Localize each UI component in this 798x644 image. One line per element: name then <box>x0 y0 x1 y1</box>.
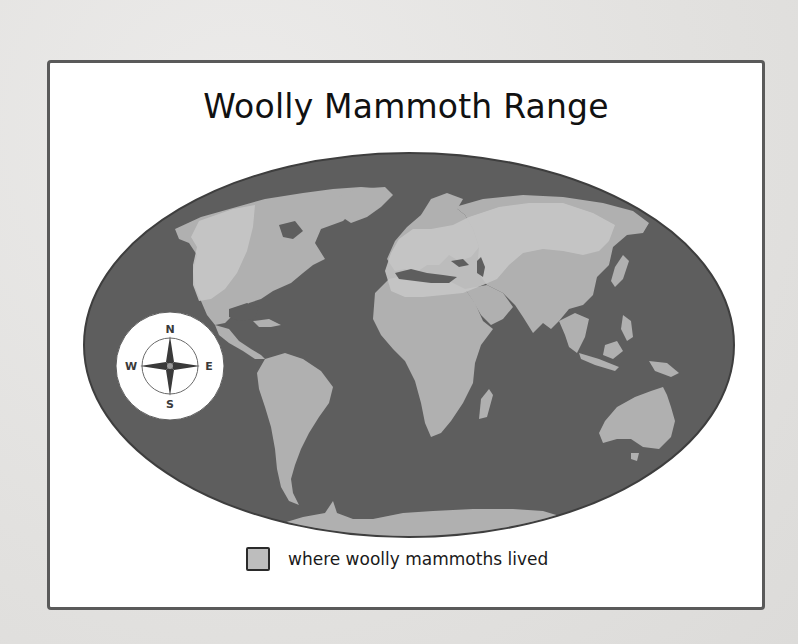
compass-north-label: N <box>165 323 174 336</box>
world-map: N S W E <box>50 63 762 607</box>
compass-east-label: E <box>205 360 213 373</box>
legend-swatch <box>246 547 270 571</box>
compass-rose-icon: N S W E <box>116 312 224 420</box>
compass-south-label: S <box>166 398 174 411</box>
map-frame: Woolly Mammoth Range <box>47 60 765 610</box>
legend-label: where woolly mammoths lived <box>288 549 548 569</box>
compass-west-label: W <box>125 360 137 373</box>
map-legend: where woolly mammoths lived <box>246 547 548 571</box>
